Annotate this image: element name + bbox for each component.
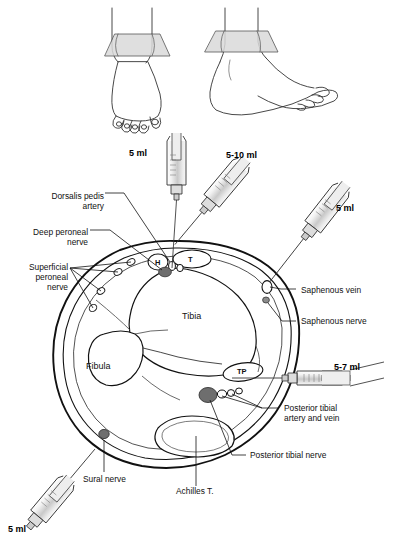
syringe-sural [21, 443, 103, 535]
achilles-tendon-shape [155, 416, 234, 457]
label-saphenous-nerve: Saphenous nerve [301, 316, 367, 326]
saphenous-nerve-dot [263, 297, 270, 303]
label-saphenous-vein: Saphenous vein [301, 285, 361, 295]
posterior-tibial-vein-dot-2 [236, 388, 243, 394]
label-fibula: Fibula [86, 361, 111, 371]
label-superficial-peroneal-nerve: Superficial peroneal nerve [0, 262, 68, 293]
marker-tendon-t: T [188, 255, 193, 264]
leg-cross-section [53, 241, 299, 468]
label-posterior-tibial-artery-vein: Posterior tibial artery and vein [284, 403, 339, 423]
marker-tendon-h: H [155, 258, 160, 267]
label-posterior-tibial-nerve: Posterior tibial nerve [250, 450, 326, 460]
anterior-foot-view [105, 8, 170, 133]
volume-label-deep-peroneal: 5 ml [129, 148, 147, 158]
posterior-tibial-vein-dot-1 [227, 390, 234, 397]
label-deep-peroneal-nerve: Deep peroneal nerve [0, 227, 88, 247]
posterior-tibial-nerve-dot [199, 388, 217, 403]
volume-label-posterior-tibial: 5-7 ml [334, 362, 360, 372]
volume-label-sural: 5 ml [8, 524, 26, 534]
top-foot-illustrations [105, 8, 338, 133]
label-dorsalis-pedis-artery: Dorsalis pedis artery [0, 191, 104, 211]
lateral-foot-view [205, 8, 338, 115]
volume-label-superficial-peroneal: 5-10 ml [226, 150, 257, 160]
volume-label-saphenous: 5 ml [336, 203, 354, 213]
dorsalis-pedis-vein-dot [177, 264, 183, 271]
label-achilles-tendon: Achilles T. [176, 486, 214, 496]
sural-nerve-dot [99, 429, 109, 438]
marker-tendon-tp: TP [237, 367, 247, 376]
label-tibia: Tibia [182, 311, 201, 321]
label-sural-nerve: Sural nerve [83, 474, 126, 484]
